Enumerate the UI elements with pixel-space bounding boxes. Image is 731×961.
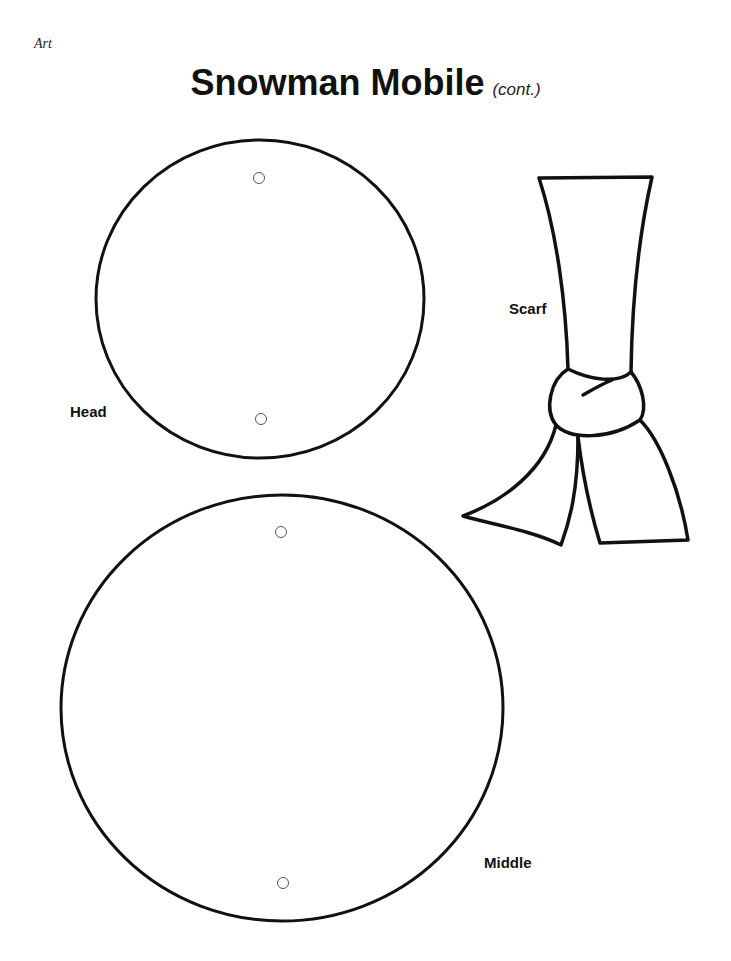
middle-label: Middle xyxy=(484,854,532,871)
middle-top-punch-hole xyxy=(276,527,287,538)
head-label: Head xyxy=(70,403,107,420)
scarf-cutout xyxy=(463,177,688,545)
middle-cutout xyxy=(61,495,503,921)
head-top-punch-hole xyxy=(254,173,265,184)
scarf-knot-fold xyxy=(583,380,612,395)
head-bottom-punch-hole xyxy=(256,414,267,425)
scarf-label: Scarf xyxy=(509,300,547,317)
scarf-upper-band xyxy=(539,177,652,372)
cutout-artwork xyxy=(0,0,731,961)
scarf-right-tail xyxy=(578,420,688,543)
head-cutout xyxy=(96,140,424,458)
scarf-left-tail xyxy=(463,425,578,545)
middle-bottom-punch-hole xyxy=(278,878,289,889)
scarf-knot xyxy=(550,369,644,436)
middle-circle xyxy=(61,495,503,921)
head-circle xyxy=(96,140,424,458)
